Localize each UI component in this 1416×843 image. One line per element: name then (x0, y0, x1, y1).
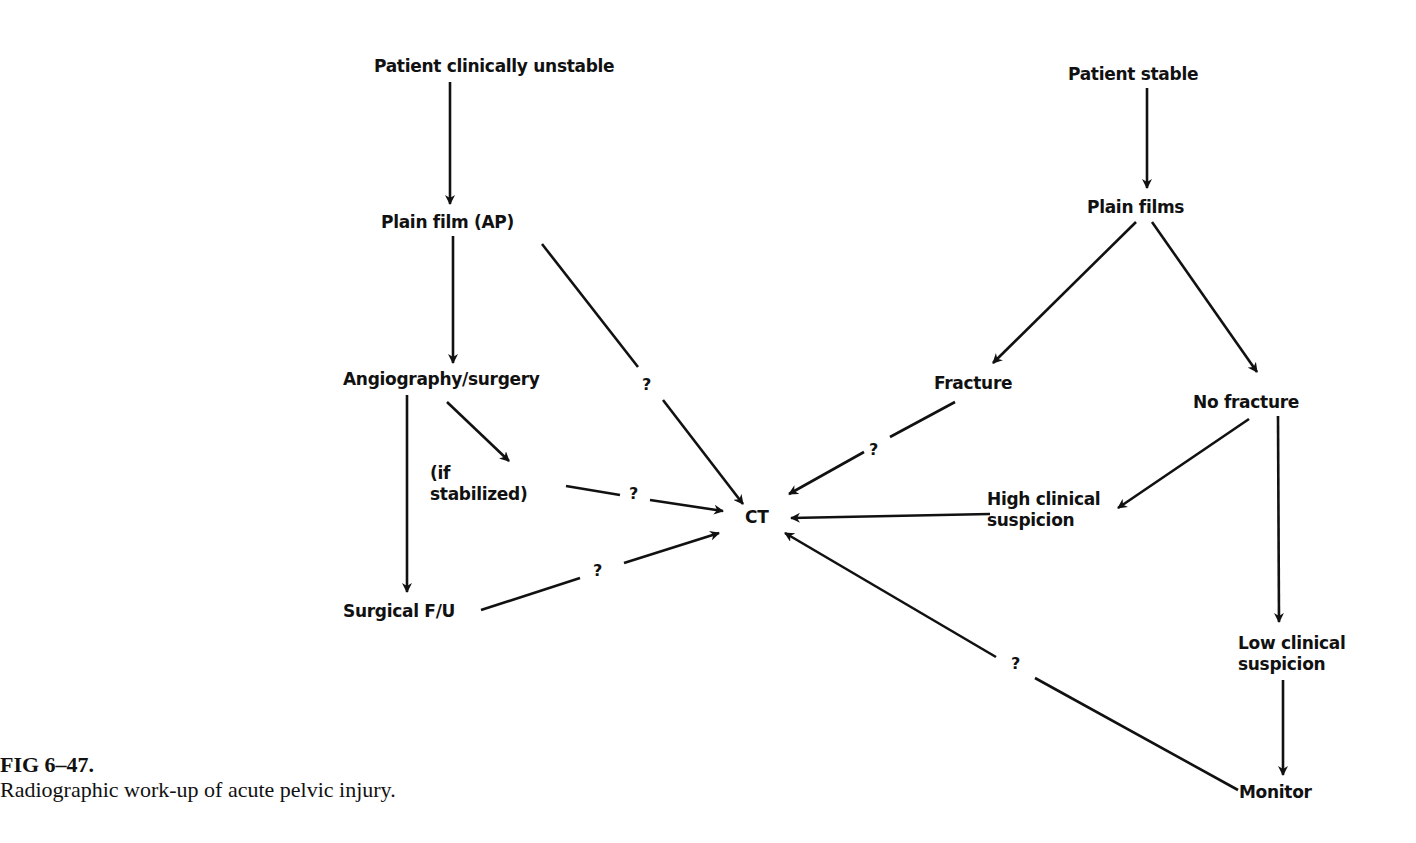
node-if-stabilized: (if stabilized) (430, 463, 527, 505)
edge-angio-to-stabilized (447, 402, 509, 461)
node-angiography-surgery: Angiography/surgery (343, 369, 540, 390)
edge-surgicalfu-to-ct-a (481, 578, 580, 610)
edge-monitor-to-ct-a (1035, 678, 1238, 790)
edge-monitor-to-ct-b (785, 533, 996, 657)
figure-number: FIG 6–47. (0, 752, 94, 778)
node-fracture: Fracture (934, 373, 1012, 394)
edge-high-to-ct (791, 514, 990, 518)
edge-label-fracture-ct: ? (869, 440, 878, 459)
node-ct: CT (745, 507, 768, 528)
edge-fracture-to-ct-b (789, 452, 864, 494)
edge-plainfilms-to-nofracture (1152, 222, 1257, 372)
node-plain-films: Plain films (1087, 197, 1184, 218)
node-high-clinical-suspicion: High clinical suspicion (987, 489, 1100, 531)
edge-label-monitor-ct: ? (1011, 654, 1020, 673)
edge-label-stabilized-ct: ? (629, 484, 638, 503)
edge-label-surgicalfu-ct: ? (593, 561, 602, 580)
flowchart-edges (0, 0, 1416, 843)
edge-nofracture-to-low (1278, 416, 1279, 622)
edge-plainfilm-to-ct-a (542, 244, 638, 367)
edge-stabilized-to-ct-b (650, 500, 723, 511)
node-no-fracture: No fracture (1193, 392, 1299, 413)
edge-label-plainfilm-ct: ? (642, 375, 651, 394)
edge-surgicalfu-to-ct-b (624, 533, 719, 563)
edge-plainfilm-to-ct-b (663, 400, 743, 504)
node-monitor: Monitor (1239, 782, 1312, 803)
edge-fracture-to-ct-a (890, 402, 955, 437)
edge-nofracture-to-high (1118, 419, 1249, 508)
edge-stabilized-to-ct-a (566, 486, 620, 495)
edge-plainfilms-to-fracture (993, 222, 1136, 363)
node-plain-film-ap: Plain film (AP) (381, 212, 514, 233)
node-patient-stable: Patient stable (1068, 64, 1198, 85)
figure-caption: Radiographic work-up of acute pelvic inj… (0, 777, 396, 803)
node-surgical-fu: Surgical F/U (343, 601, 455, 622)
node-low-clinical-suspicion: Low clinical suspicion (1238, 633, 1346, 675)
node-patient-unstable: Patient clinically unstable (374, 56, 614, 77)
